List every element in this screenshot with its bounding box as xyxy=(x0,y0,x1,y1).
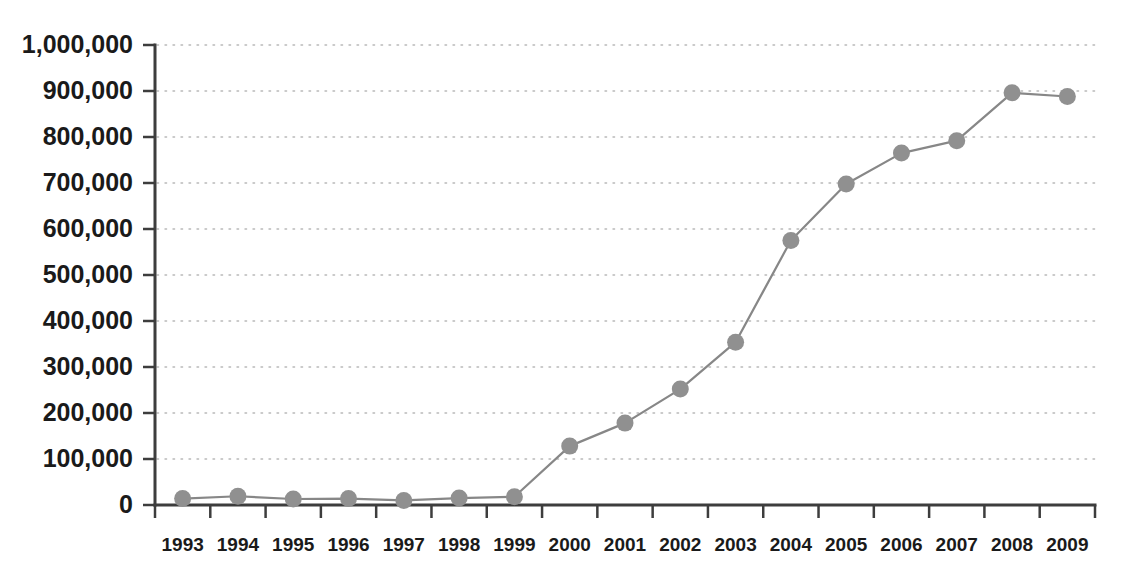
data-point-2009 xyxy=(1059,88,1076,105)
data-point-2002 xyxy=(672,381,689,398)
x-tick-label-2007: 2007 xyxy=(936,534,978,555)
data-point-1997 xyxy=(395,492,412,509)
data-point-2004 xyxy=(782,232,799,249)
x-tick-label-2006: 2006 xyxy=(880,534,922,555)
x-tick-label-1999: 1999 xyxy=(493,534,535,555)
x-axis-tick-labels: 1993199419951996199719981999200020012002… xyxy=(162,534,1089,555)
y-tick-label-600000: 600,000 xyxy=(43,214,133,242)
data-point-1993 xyxy=(174,490,191,507)
data-point-2005 xyxy=(838,175,855,192)
x-tick-label-1995: 1995 xyxy=(272,534,315,555)
x-tick-label-2003: 2003 xyxy=(714,534,756,555)
gridlines xyxy=(157,45,1095,459)
y-tick-label-1000000: 1,000,000 xyxy=(22,30,133,58)
y-tick-label-700000: 700,000 xyxy=(43,168,133,196)
data-point-2000 xyxy=(561,438,578,455)
x-tick-label-1998: 1998 xyxy=(438,534,480,555)
y-tick-label-800000: 800,000 xyxy=(43,122,133,150)
y-tick-label-500000: 500,000 xyxy=(43,260,133,288)
x-tick-label-2005: 2005 xyxy=(825,534,868,555)
x-tick-label-1996: 1996 xyxy=(327,534,369,555)
series-data-markers xyxy=(174,84,1076,509)
x-tick-label-2008: 2008 xyxy=(991,534,1033,555)
x-tick-label-2001: 2001 xyxy=(604,534,647,555)
x-tick-label-2004: 2004 xyxy=(770,534,813,555)
x-tick-label-1994: 1994 xyxy=(217,534,260,555)
y-tick-label-300000: 300,000 xyxy=(43,352,133,380)
data-point-1994 xyxy=(229,488,246,505)
data-point-1995 xyxy=(285,491,302,508)
x-tick-label-2002: 2002 xyxy=(659,534,701,555)
data-point-2003 xyxy=(727,334,744,351)
x-tick-label-1993: 1993 xyxy=(162,534,204,555)
y-axis-tick-marks xyxy=(143,45,155,505)
data-point-1999 xyxy=(506,488,523,505)
line-chart-figure: 0100,000200,000300,000400,000500,000600,… xyxy=(0,0,1137,581)
x-tick-label-1997: 1997 xyxy=(383,534,425,555)
series-line-path xyxy=(183,93,1068,501)
data-point-2007 xyxy=(948,132,965,149)
x-tick-label-2000: 2000 xyxy=(549,534,591,555)
y-tick-label-200000: 200,000 xyxy=(43,398,133,426)
data-point-2008 xyxy=(1004,84,1021,101)
y-tick-label-900000: 900,000 xyxy=(43,76,133,104)
y-tick-label-0: 0 xyxy=(119,490,133,518)
y-axis-tick-labels: 0100,000200,000300,000400,000500,000600,… xyxy=(22,30,133,518)
chart-canvas: 0100,000200,000300,000400,000500,000600,… xyxy=(0,0,1137,581)
data-point-1996 xyxy=(340,490,357,507)
y-tick-label-400000: 400,000 xyxy=(43,306,133,334)
data-point-1998 xyxy=(451,490,468,507)
data-point-2001 xyxy=(617,415,634,432)
y-tick-label-100000: 100,000 xyxy=(43,444,133,472)
data-point-2006 xyxy=(893,145,910,162)
x-tick-label-2009: 2009 xyxy=(1046,534,1088,555)
